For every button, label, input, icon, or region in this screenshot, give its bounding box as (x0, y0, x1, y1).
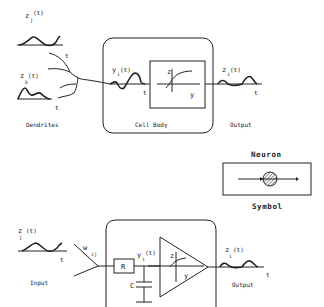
input-signal-j: z j (t) (17, 9, 63, 45)
capacitor: C (130, 266, 152, 302)
svg-text:t: t (254, 89, 258, 96)
svg-text:w: w (83, 244, 88, 252)
output-signal: z i (t) t (208, 246, 270, 278)
svg-text:t: t (266, 271, 270, 278)
svg-text:y: y (184, 272, 188, 280)
svg-text:(t): (t) (230, 66, 241, 73)
svg-text:(t): (t) (26, 227, 37, 234)
electrical-model: z j (t) t Input w ij R y i (t) (18, 220, 270, 307)
svg-text:k: k (25, 79, 28, 85)
svg-text:y: y (112, 66, 116, 74)
svg-text:R: R (121, 263, 126, 271)
svg-text:j: j (19, 234, 22, 241)
transfer-function-box: z y (150, 61, 205, 108)
svg-text:t: t (143, 89, 147, 96)
input-signal: z j (t) t (18, 227, 67, 263)
dendrite-branches: t (48, 52, 105, 98)
neuron-model-diagram: z j (t) t z k (t) t Dendrites (0, 0, 324, 307)
svg-text:z: z (222, 66, 226, 74)
dendrites-label: Dendrites (26, 121, 59, 128)
output-label: Output (232, 281, 254, 289)
svg-text:(t): (t) (33, 9, 44, 16)
cell-body-box (103, 38, 213, 133)
svg-text:z: z (170, 252, 174, 260)
svg-text:i: i (142, 256, 145, 262)
neuron-circle-icon (263, 172, 277, 186)
svg-text:j: j (30, 17, 33, 24)
synaptic-weight: w ij (74, 244, 114, 276)
amplifier: z y (148, 237, 208, 297)
svg-text:y: y (137, 251, 141, 259)
svg-text:(t): (t) (120, 66, 131, 73)
svg-text:z: z (167, 68, 171, 76)
svg-text:C: C (130, 282, 134, 290)
cell-body-label: Cell Body (135, 121, 168, 129)
svg-text:t: t (55, 104, 59, 111)
svg-text:z: z (20, 72, 24, 80)
svg-text:(t): (t) (233, 246, 244, 253)
svg-text:ij: ij (91, 251, 97, 258)
neuron-symbol: Neuron Symbol (223, 150, 311, 211)
output-signal: z i (t) t (205, 66, 262, 96)
input-label: Input (30, 279, 48, 287)
neuron-title: Neuron (251, 150, 282, 159)
svg-text:i: i (229, 253, 232, 259)
output-label: Output (230, 121, 252, 129)
svg-text:(t): (t) (28, 72, 39, 79)
svg-text:y: y (190, 91, 194, 99)
input-signal-k: z k (t) t (17, 72, 59, 111)
membrane-potential-signal: y i (t) t (110, 66, 150, 96)
zj-label: z (25, 12, 29, 20)
symbol-caption: Symbol (252, 202, 283, 211)
svg-text:(t): (t) (145, 249, 156, 256)
svg-text:t: t (60, 256, 64, 263)
biological-neuron: z j (t) t z k (t) t Dendrites (17, 9, 262, 133)
svg-text:t: t (65, 52, 69, 59)
